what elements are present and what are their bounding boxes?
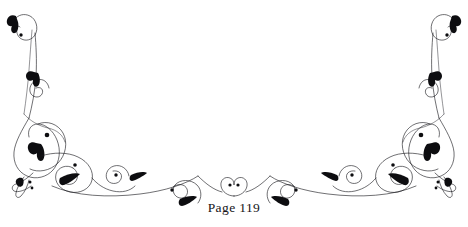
right-connector-dot	[350, 173, 353, 176]
lower-right-scroll-dot	[391, 163, 395, 167]
lower-left-scroll-dot	[73, 163, 77, 167]
page-number-label: Page 119	[0, 200, 468, 216]
top-right-leaf	[450, 15, 462, 33]
left-body-dot	[45, 133, 50, 138]
right-body-leaf	[424, 142, 441, 161]
left-connector-dot	[114, 173, 117, 176]
lower-right-scroll-sweep	[333, 178, 376, 192]
left-connector-leaf	[130, 172, 147, 181]
left-ribbon-dot-b	[31, 187, 34, 190]
center-dot-right	[236, 183, 239, 186]
lower-left-scroll-sweep	[92, 178, 135, 192]
right-ribbon-dot-a	[437, 181, 440, 184]
left-flourish-group	[7, 15, 201, 206]
right-body-dot	[419, 133, 424, 138]
left-body-leaf	[28, 142, 45, 161]
lower-right-scroll-outer	[376, 153, 427, 192]
left-inner-scroll-dot	[170, 188, 173, 191]
top-right-dot	[445, 33, 448, 36]
top-left-leaf	[7, 15, 19, 33]
ornament-flourish-illustration	[0, 0, 468, 227]
ornament-page: Page 119	[0, 0, 468, 227]
center-swag-left	[198, 176, 222, 192]
center-motif-group	[198, 176, 270, 196]
lower-left-scroll-outer	[41, 153, 92, 192]
right-ribbon-dot-b	[435, 187, 438, 190]
right-flourish-group	[267, 15, 461, 206]
right-ribbon-tail-leaf	[444, 178, 452, 187]
left-ribbon-dot-a	[29, 181, 32, 184]
center-dot-left	[228, 183, 231, 186]
right-connector-leaf	[321, 172, 338, 181]
right-inner-scroll-dot	[294, 188, 297, 191]
upper-right-leaf	[428, 71, 442, 86]
top-left-crook-terminal	[15, 15, 37, 41]
top-left-dot	[19, 33, 22, 36]
center-swag-right	[246, 176, 270, 192]
center-heart-loop	[221, 177, 247, 196]
left-ribbon-tail-leaf	[16, 178, 24, 187]
top-right-crook-terminal	[431, 15, 453, 41]
upper-left-leaf	[26, 71, 40, 86]
